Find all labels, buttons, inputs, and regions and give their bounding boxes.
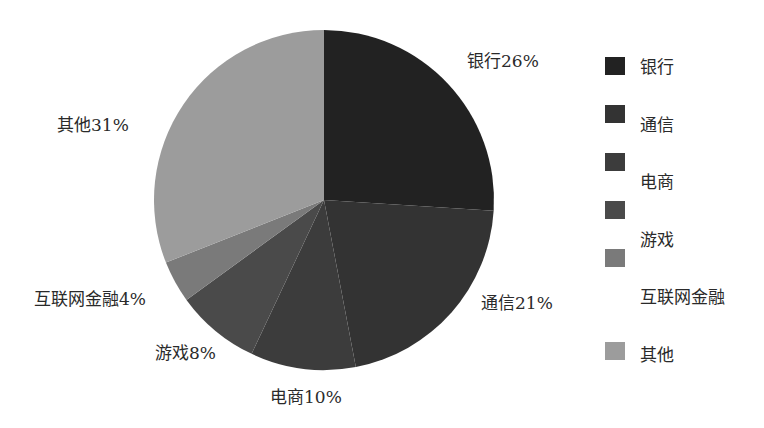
legend-swatch-internet-finance: [605, 249, 625, 267]
pie-slices: [154, 30, 494, 370]
legend-swatch-other: [605, 342, 625, 360]
slice-label-bank: 银行26%: [467, 51, 539, 71]
legend-label-ecommerce: 电商: [640, 172, 674, 192]
slice-label-ecommerce: 电商10%: [270, 387, 342, 407]
legend-swatch-bank: [605, 57, 625, 75]
legend-swatch-telecom: [605, 105, 625, 123]
legend-swatch-ecommerce: [605, 153, 625, 171]
slice-label-other: 其他31%: [57, 115, 129, 135]
legend-label-telecom: 通信: [640, 115, 674, 135]
pie-chart: 银行26% 通信21% 电商10% 游戏8% 互联网金融4% 其他31% 银行 …: [0, 0, 764, 428]
legend: 银行 通信 电商 游戏 互联网金融 其他: [605, 57, 725, 365]
legend-label-internet-finance: 互联网金融: [640, 287, 725, 307]
slice-label-telecom: 通信21%: [481, 293, 553, 313]
legend-swatch-games: [605, 201, 625, 219]
legend-label-other: 其他: [640, 345, 674, 365]
slice-label-games: 游戏8%: [155, 343, 216, 363]
slice-label-internet-finance: 互联网金融4%: [34, 289, 146, 309]
legend-label-bank: 银行: [640, 57, 674, 77]
legend-label-games: 游戏: [640, 230, 674, 250]
